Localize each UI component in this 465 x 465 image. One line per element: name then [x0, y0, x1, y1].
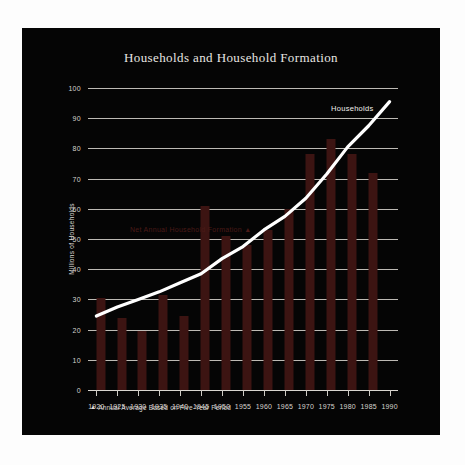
y-tick-label-90: 90 — [73, 115, 81, 122]
y-tick-label-70: 70 — [73, 175, 81, 182]
x-tick-1980 — [348, 390, 349, 396]
y-tick-label-100: 100 — [68, 85, 81, 92]
x-tick-label-1980: 1980 — [340, 403, 356, 410]
y-tick-label-20: 20 — [73, 326, 81, 333]
chart-root: Households and Household Formation Milli… — [0, 0, 465, 465]
x-tick-1920 — [96, 390, 97, 396]
y-tick-label-50: 50 — [73, 236, 81, 243]
y-tick-label-40: 40 — [73, 266, 81, 273]
x-tick-label-1960: 1960 — [256, 403, 272, 410]
y-tick-label-30: 30 — [73, 296, 81, 303]
y-tick-label-80: 80 — [73, 145, 81, 152]
x-tick-1950 — [222, 390, 223, 396]
y-tick-label-10: 10 — [73, 356, 81, 363]
x-tick-1975 — [327, 390, 328, 396]
x-tick-1990 — [390, 390, 391, 396]
x-tick-1985 — [369, 390, 370, 396]
chart-panel: Households and Household Formation Milli… — [22, 28, 440, 435]
y-tick-label-0: 0 — [77, 387, 81, 394]
x-tick-1925 — [117, 390, 118, 396]
x-tick-label-1985: 1985 — [360, 403, 376, 410]
footnote-text: Annual Average Based on Five-Year Period — [98, 404, 231, 411]
x-tick-1935 — [159, 390, 160, 396]
x-tick-1930 — [138, 390, 139, 396]
x-tick-1955 — [243, 390, 244, 396]
footnote: ▲Annual Average Based on Five-Year Perio… — [90, 404, 231, 411]
households-line-path — [96, 102, 389, 316]
x-tick-1970 — [306, 390, 307, 396]
x-tick-label-1975: 1975 — [319, 403, 335, 410]
plot-area: Millions of Households 01020304050607080… — [88, 88, 398, 390]
x-tick-1965 — [285, 390, 286, 396]
x-tick-label-1990: 1990 — [381, 403, 397, 410]
y-tick-label-60: 60 — [73, 205, 81, 212]
x-tick-1960 — [264, 390, 265, 396]
chart-title: Households and Household Formation — [22, 50, 440, 66]
households-line-label: Households — [331, 104, 374, 113]
line-series-households — [88, 88, 398, 390]
x-tick-1940 — [180, 390, 181, 396]
x-tick-label-1965: 1965 — [277, 403, 293, 410]
x-tick-label-1955: 1955 — [235, 403, 251, 410]
x-tick-label-1970: 1970 — [298, 403, 314, 410]
x-tick-1945 — [201, 390, 202, 396]
footnote-triangle-icon: ▲ — [90, 404, 96, 410]
